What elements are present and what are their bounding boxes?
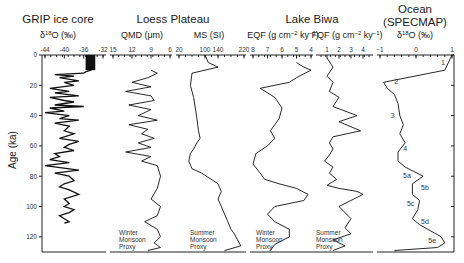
x-tick-label-fqf: 4 bbox=[361, 46, 365, 53]
x-tick-label-qmd: 12 bbox=[128, 46, 136, 53]
title-loess: Loess Plateau bbox=[137, 13, 210, 25]
stage-label: 5b bbox=[421, 184, 429, 191]
svg-text:Monsoon: Monsoon bbox=[190, 236, 217, 243]
svg-text:Winter: Winter bbox=[119, 229, 139, 236]
chart-canvas: GRIP ice core Loess Plateau Lake Biwa Oc… bbox=[0, 0, 464, 263]
label-fqf: FQF (g cm−2 ky−1) bbox=[311, 30, 382, 40]
y-axis: 020406080100120 Age (ka) bbox=[7, 51, 42, 252]
svg-text:Monsoon: Monsoon bbox=[119, 236, 146, 243]
x-tick-label-grip: -36 bbox=[79, 46, 89, 53]
title-biwa: Lake Biwa bbox=[285, 13, 339, 25]
x-tick-label-ocean: 0 bbox=[414, 46, 418, 53]
stage-label: 1 bbox=[441, 59, 445, 66]
stage-label: 4 bbox=[403, 145, 407, 152]
curve-eqf bbox=[253, 63, 311, 251]
title-ocean: Ocean bbox=[398, 3, 432, 15]
paleoclimate-figure: GRIP ice core Loess Plateau Lake Biwa Oc… bbox=[0, 0, 464, 263]
y-axis-label: Age (ka) bbox=[7, 131, 18, 169]
svg-text:Winter: Winter bbox=[256, 229, 276, 236]
x-tick-label-ms: 100 bbox=[200, 46, 211, 53]
x-tick-label-eqf: 4 bbox=[309, 46, 313, 53]
svg-text:Monsoon: Monsoon bbox=[316, 236, 343, 243]
svg-text:Proxy: Proxy bbox=[256, 243, 273, 251]
x-tick-label-eqf: 8 bbox=[251, 46, 255, 53]
x-tick-label-grip: -44 bbox=[40, 46, 50, 53]
stage-label: 3 bbox=[391, 112, 395, 119]
y-tick-label: 120 bbox=[26, 233, 37, 240]
stage-label: 5c bbox=[407, 200, 415, 207]
y-tick-label: 20 bbox=[30, 82, 38, 89]
x-tick-label-ocean: 1 bbox=[450, 46, 454, 53]
x-tick-label-fqf: 1 bbox=[325, 46, 329, 53]
label-ms: MS (SI) bbox=[194, 30, 225, 40]
x-tick-label-eqf: 7 bbox=[266, 46, 270, 53]
annotation-eqf-winter: Winter Monsoon Proxy bbox=[256, 229, 283, 251]
y-tick-label: 40 bbox=[30, 112, 38, 119]
y-tick-label: 0 bbox=[33, 51, 37, 58]
title-grip: GRIP ice core bbox=[22, 13, 93, 25]
y-tick-label: 100 bbox=[26, 203, 37, 210]
svg-text:Proxy: Proxy bbox=[316, 243, 333, 251]
x-tick-label-grip: -32 bbox=[98, 46, 108, 53]
curve-ms bbox=[189, 55, 241, 251]
stage-label: 5d bbox=[421, 218, 429, 225]
svg-text:Proxy: Proxy bbox=[190, 243, 207, 251]
x-tick-label-ocean: −1 bbox=[376, 46, 384, 53]
y-tick-label: 60 bbox=[30, 142, 38, 149]
annotation-qmd-winter: Winter Monsoon Proxy bbox=[119, 229, 146, 251]
x-tick-label-qmd: 15 bbox=[109, 46, 117, 53]
x-tick-label-eqf: 5 bbox=[295, 46, 299, 53]
y-tick-label: 80 bbox=[30, 173, 38, 180]
grip-holocene-block bbox=[86, 55, 96, 70]
x-tick-label-fqf: 2 bbox=[337, 46, 341, 53]
top-axes: -44-40-36-3215129620100140220876541234−1… bbox=[40, 46, 454, 59]
data-curves bbox=[45, 55, 452, 251]
x-tick-label-eqf: 6 bbox=[280, 46, 284, 53]
svg-text:Monsoon: Monsoon bbox=[256, 236, 283, 243]
x-tick-label-qmd: 6 bbox=[168, 46, 172, 53]
svg-text:Proxy: Proxy bbox=[119, 243, 136, 251]
label-qmd: QMD (μm) bbox=[121, 30, 163, 40]
x-tick-label-fqf: 3 bbox=[349, 46, 353, 53]
label-eqf: EQF (g cm−2 ky−1) bbox=[247, 30, 319, 40]
svg-text:Summer: Summer bbox=[190, 229, 215, 236]
stage-label: 2 bbox=[394, 78, 398, 85]
stage-label: 5a bbox=[403, 172, 411, 179]
svg-text:Summer: Summer bbox=[316, 229, 341, 236]
stage-label: 5e bbox=[428, 237, 436, 244]
x-tick-label-grip: -40 bbox=[60, 46, 70, 53]
annotation-ms-summer: Summer Monsoon Proxy bbox=[190, 229, 217, 251]
curve-grip bbox=[45, 55, 93, 223]
title-ocean-specmap: (SPECMAP) bbox=[383, 16, 447, 28]
x-tick-label-ms: 20 bbox=[175, 46, 183, 53]
curve-fqf bbox=[325, 58, 363, 251]
curve-qmd bbox=[126, 70, 161, 250]
x-tick-label-ms: 140 bbox=[213, 46, 224, 53]
label-grip-d18o: δ18O (‰) bbox=[40, 30, 76, 40]
label-ocean-d18o: δ18O (‰) bbox=[397, 30, 433, 40]
x-tick-label-ms: 220 bbox=[239, 46, 250, 53]
x-tick-label-qmd: 9 bbox=[149, 46, 153, 53]
